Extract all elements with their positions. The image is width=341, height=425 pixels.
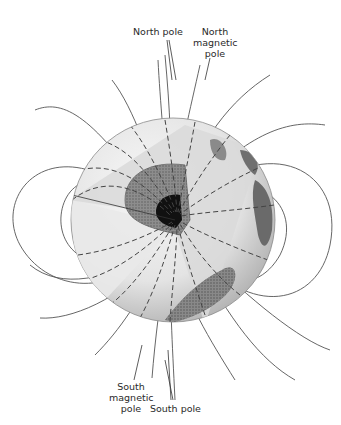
south-magnetic-pole-line-2: magnetic	[109, 392, 153, 403]
north-pole-label: North pole	[133, 26, 183, 37]
north-magnetic-pole-line-2: magnetic	[193, 37, 237, 48]
north-magnetic-pole-line-1: North	[193, 26, 237, 37]
south-pole-label: South pole	[150, 403, 201, 414]
magnetic-field-diagram	[0, 0, 341, 425]
north-magnetic-pole-line-3: pole	[193, 48, 237, 59]
south-magnetic-pole-line-3: pole	[109, 403, 153, 414]
north-magnetic-pole-label: North magnetic pole	[193, 26, 237, 59]
south-magnetic-pole-line-1: South	[109, 381, 153, 392]
south-magnetic-pole-label: South magnetic pole	[109, 381, 153, 414]
earth-globe-icon	[70, 118, 275, 325]
